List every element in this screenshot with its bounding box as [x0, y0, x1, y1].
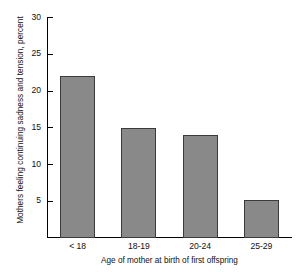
y-tick-label: 30	[19, 13, 41, 22]
x-tick-label: 18-19	[108, 240, 169, 252]
y-tick-label: 15	[19, 123, 41, 132]
bar-18-19	[121, 128, 156, 238]
y-tick-label: 5	[19, 196, 41, 205]
x-tick-label: < 18	[47, 240, 108, 252]
bar-chart: Mothers feeling continuing sadness and t…	[0, 0, 302, 272]
x-axis-title: Age of mother at birth of first offsprin…	[47, 256, 292, 266]
bar-25-29	[244, 200, 279, 238]
y-tick-label: 20	[19, 86, 41, 95]
x-axis-tick-labels: < 1818-1920-2425-29	[47, 240, 292, 254]
y-tick-label: 25	[19, 49, 41, 58]
y-tick-label: 10	[19, 160, 41, 169]
bar-20-24	[183, 135, 218, 238]
x-tick-label: 20-24	[170, 240, 231, 252]
bars-layer	[47, 17, 292, 238]
bar-18	[60, 76, 95, 238]
x-tick-label: 25-29	[231, 240, 292, 252]
